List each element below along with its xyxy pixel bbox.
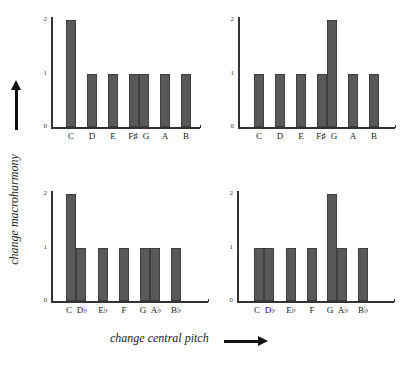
right-arrow-icon <box>224 340 258 343</box>
y-axis <box>237 191 239 302</box>
x-tick-label: E <box>291 131 311 141</box>
x-tick-label: E <box>103 131 123 141</box>
x-tick-label: F <box>302 305 322 315</box>
x-tick-label: D <box>270 131 290 141</box>
bar-D <box>275 74 285 128</box>
y-tick-label: 0 <box>39 123 47 130</box>
x-tick-label: B <box>364 131 384 141</box>
bar-A <box>160 74 170 128</box>
bar-G <box>327 194 337 301</box>
bar-F♯ <box>129 74 139 128</box>
bar-C <box>66 194 76 301</box>
y-tick-label: 0 <box>226 123 234 130</box>
x-axis <box>51 301 208 303</box>
bar-G <box>139 74 149 128</box>
x-tick-label: D♭ <box>260 305 280 315</box>
y-tick-label: 0 <box>39 297 47 304</box>
x-axis <box>51 127 200 129</box>
y-axis <box>51 17 53 128</box>
bar-D♭ <box>76 248 86 302</box>
x-axis <box>238 127 395 129</box>
x-tick-label: B♭ <box>166 305 186 315</box>
bar-G <box>140 248 150 302</box>
bar-E <box>296 74 306 128</box>
bar-A♭ <box>150 248 160 302</box>
x-tick-label: E♭ <box>93 305 113 315</box>
x-axis-end-tick <box>208 299 209 302</box>
x-tick-label: B♭ <box>353 305 373 315</box>
y-tick-label: 0 <box>225 297 233 304</box>
x-axis-end-tick <box>200 125 201 128</box>
bar-C <box>254 74 264 128</box>
y-tick-label: 1 <box>39 70 47 77</box>
x-tick-label: F <box>114 305 134 315</box>
x-axis-title: change central pitch <box>110 331 209 346</box>
y-tick-label: 1 <box>39 244 47 251</box>
y-tick-label: 1 <box>226 70 234 77</box>
x-tick-label: C <box>61 131 81 141</box>
bar-G <box>327 20 337 127</box>
bar-D♭ <box>264 248 274 302</box>
y-tick-label: 2 <box>225 190 233 197</box>
bar-E <box>108 74 118 128</box>
up-arrow-icon <box>15 88 18 130</box>
bar-C <box>254 248 264 302</box>
x-axis <box>237 301 394 303</box>
x-tick-label: D <box>82 131 102 141</box>
bar-B <box>181 74 191 128</box>
bar-A <box>348 74 358 128</box>
x-tick-label: D♭ <box>72 305 92 315</box>
x-tick-label: C <box>249 131 269 141</box>
bar-E♭ <box>98 248 108 302</box>
x-tick-label: A <box>155 131 175 141</box>
bar-E♭ <box>286 248 296 302</box>
bar-D <box>87 74 97 128</box>
y-tick-label: 2 <box>39 190 47 197</box>
y-axis-title-text: change macroharmony <box>7 110 22 310</box>
x-tick-label: A♭ <box>333 305 353 315</box>
y-axis-title: change macroharmony <box>4 60 24 270</box>
x-tick-label: G <box>136 131 156 141</box>
bar-C <box>66 20 76 127</box>
x-tick-label: A <box>343 131 363 141</box>
bar-A♭ <box>337 248 347 302</box>
bar-B♭ <box>358 248 368 302</box>
x-axis-end-tick <box>394 299 395 302</box>
x-axis-end-tick <box>395 125 396 128</box>
bar-F <box>119 248 129 302</box>
y-tick-label: 2 <box>39 16 47 23</box>
y-axis <box>51 191 53 302</box>
bar-F <box>307 248 317 302</box>
bar-B♭ <box>171 248 181 302</box>
y-axis <box>238 17 240 128</box>
x-tick-label: G <box>324 131 344 141</box>
x-tick-label: A♭ <box>146 305 166 315</box>
bar-F♯ <box>317 74 327 128</box>
x-tick-label: B <box>176 131 196 141</box>
bar-B <box>369 74 379 128</box>
y-tick-label: 2 <box>226 16 234 23</box>
y-tick-label: 1 <box>225 244 233 251</box>
x-tick-label: E♭ <box>281 305 301 315</box>
